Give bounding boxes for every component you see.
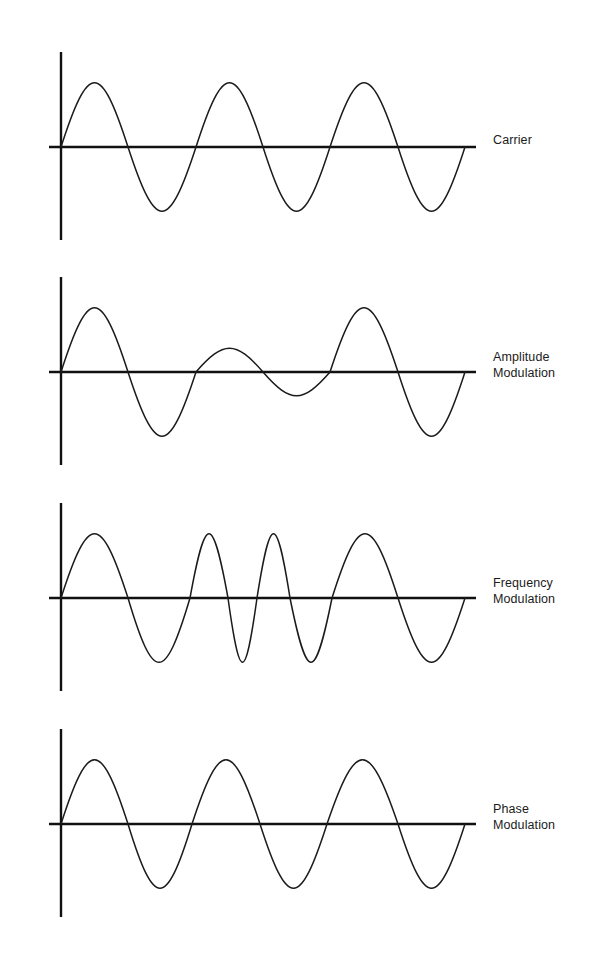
panel-label-carrier: Carrier	[493, 133, 532, 149]
panel-label-phase-modulation: Phase Modulation	[493, 802, 555, 833]
panel-label-frequency-modulation: Frequency Modulation	[493, 576, 555, 607]
panel-label-amplitude-modulation: Amplitude Modulation	[493, 350, 555, 381]
